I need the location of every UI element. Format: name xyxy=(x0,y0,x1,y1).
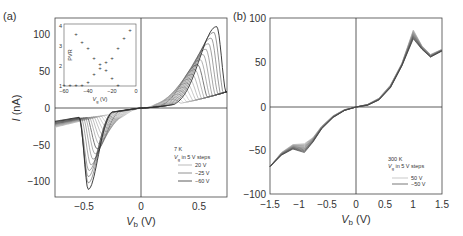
legend-overlay xyxy=(0,0,463,236)
